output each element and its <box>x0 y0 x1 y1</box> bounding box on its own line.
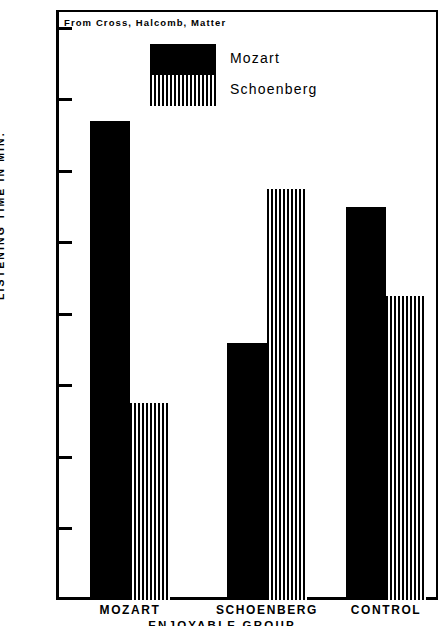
bar <box>130 403 170 600</box>
x-axis-group-label: CONTROL <box>316 603 444 617</box>
y-axis-tick-mark <box>59 456 72 459</box>
bar-chart-figure: LISTENING TIME IN MIN. 18116151413121110… <box>0 0 444 626</box>
bar <box>90 121 130 600</box>
y-axis-tick-mark <box>59 241 72 244</box>
y-axis-tick-mark <box>59 98 72 101</box>
x-axis-group-label: MOZART <box>60 603 200 617</box>
y-axis-tick-mark <box>59 384 72 387</box>
bar <box>346 207 386 600</box>
bar <box>227 343 267 600</box>
y-axis-tick-mark <box>59 313 72 316</box>
y-axis-tick-mark <box>59 527 72 530</box>
source-note: From Cross, Halcomb, Matter <box>64 17 226 28</box>
y-axis-title: LISTENING TIME IN MIN. <box>0 50 6 300</box>
legend-swatch-striped <box>150 75 216 106</box>
bar <box>267 189 307 600</box>
legend-label: Schoenberg <box>230 81 318 97</box>
x-axis-caption: ENJOYABLE GROUP <box>0 619 444 626</box>
y-axis-tick-mark <box>59 170 72 173</box>
legend-label: Mozart <box>230 50 280 66</box>
legend-swatch-solid <box>150 44 216 75</box>
bar <box>386 296 426 600</box>
